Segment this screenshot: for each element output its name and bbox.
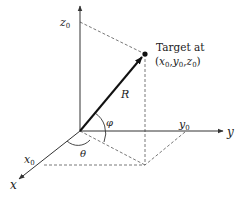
y-axis-label: y [226,125,234,139]
coordinate-diagram: z0 y0 x0 y x R φ θ Target at (x0,y0,z0) [0,0,245,198]
target-label-coords: (x0,y0,z0) [155,55,201,69]
target-label-line1: Target at [156,41,205,53]
theta-arc [67,140,90,145]
r-label: R [120,88,129,101]
origin-to-ground-dash [80,131,145,165]
target-point [142,51,147,56]
x-axis-label: x [10,178,17,192]
phi-arc [95,113,106,142]
z0-label: z0 [59,16,70,30]
z0-to-target-dash [80,22,145,54]
phi-label: φ [106,117,113,128]
theta-label: θ [80,148,86,159]
y0-to-ground-dash [145,132,185,165]
x0-label: x0 [24,153,35,167]
y0-label: y0 [178,118,190,132]
